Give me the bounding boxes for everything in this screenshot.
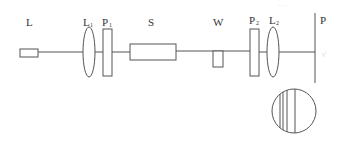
label-wedge: W	[213, 16, 224, 28]
label-p1: P	[102, 16, 108, 28]
sample-s	[130, 44, 176, 60]
optical-setup-diagram: L L 1 P 1 S W P 2 L 2 P ·· · γ'	[0, 0, 344, 141]
lens-l2	[267, 27, 279, 77]
label-l2: L	[269, 14, 276, 26]
wedge-w	[213, 51, 223, 67]
label-sample: S	[148, 16, 154, 28]
polarizer-p2	[250, 29, 259, 76]
fringe-pattern	[272, 85, 316, 137]
label-p1-subscript: 1	[109, 22, 112, 28]
label-laser: L	[26, 16, 33, 28]
label-p2: P	[249, 14, 255, 26]
lens-l1	[83, 27, 95, 77]
label-l2-subscript: 2	[276, 20, 279, 26]
label-l1-subscript: 1	[90, 22, 93, 28]
fringe-pattern-circle	[272, 89, 316, 133]
faint-mark-top: ·· ·	[278, 2, 287, 10]
label-l1: L	[83, 16, 90, 28]
polarizer-p1	[103, 29, 112, 76]
label-p2-subscript: 2	[256, 20, 259, 26]
laser-source	[20, 49, 38, 57]
label-screen: P	[320, 14, 326, 26]
faint-mark-right: γ'	[321, 50, 326, 58]
